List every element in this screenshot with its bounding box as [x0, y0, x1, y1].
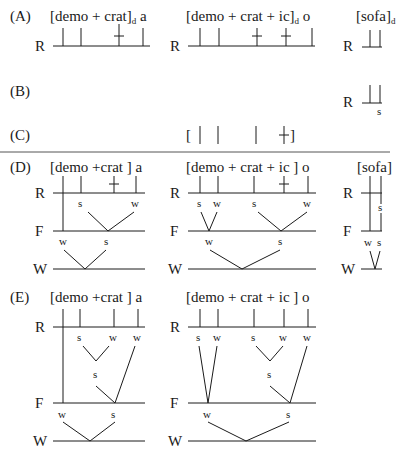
stress-mark: w [109, 332, 117, 343]
tier-label-root: R [35, 39, 45, 54]
tier-label-foot: F [343, 224, 351, 239]
panel-label-d: (D) [10, 160, 31, 175]
stress-mark: w [203, 409, 211, 420]
tier-label-foot: F [35, 396, 43, 411]
stress-mark: s [278, 236, 282, 247]
tier-label-root: R [170, 186, 180, 201]
stress-mark: s [251, 332, 255, 343]
form-text: [demo + crat] [50, 8, 132, 24]
tier-label-foot: F [35, 224, 43, 239]
panel-label-c: (C) [10, 128, 30, 143]
stress-mark: s [197, 198, 201, 209]
stress-mark: w [133, 332, 141, 343]
stress-mark: s [252, 198, 256, 209]
stress-mark: s [378, 202, 382, 213]
stress-mark: s [286, 409, 290, 420]
tier-label-root: R [343, 186, 353, 201]
stress-mark: s [377, 237, 381, 248]
tier-label-word: W [168, 434, 182, 449]
form-suffix: a [140, 8, 147, 24]
stress-mark: w [303, 198, 311, 209]
form-democratic-underlying: [demo + crat + ic]d o [186, 9, 310, 24]
stress-mark: w [303, 332, 311, 343]
tier-label-root: R [35, 320, 45, 335]
form-democrat: [demo +crat ] a [50, 290, 142, 305]
form-subscript: d [132, 16, 137, 26]
tier-label-root: R [343, 95, 353, 110]
tier-label-word: W [33, 434, 47, 449]
tier-label-foot: F [170, 396, 178, 411]
stress-mark: s [93, 369, 97, 380]
tier-label-root: R [170, 320, 180, 335]
form-subscript: d [391, 16, 396, 26]
tier-label-word: W [168, 262, 182, 277]
form-sofa-underlying: [sofa]d [356, 9, 395, 24]
metrical-tree-lines [0, 0, 397, 455]
form-democrat: [demo +crat ] a [50, 160, 142, 175]
panel-label-e: (E) [10, 290, 29, 305]
stress-mark: w [58, 409, 66, 420]
tier-label-root: R [343, 39, 353, 54]
stress-mark: w [213, 332, 221, 343]
form-democratic: [demo + crat + ic ] o [186, 290, 310, 305]
tier-label-word: W [33, 262, 47, 277]
form-text: [demo + crat + ic] [186, 8, 295, 24]
tier-label-foot: F [170, 224, 178, 239]
stress-mark: s [78, 198, 82, 209]
tier-label-word: W [341, 262, 355, 277]
grid-close-bracket: ] [290, 128, 295, 143]
tier-label-root: R [170, 39, 180, 54]
form-text: [sofa] [356, 8, 391, 24]
stress-mark: w [364, 237, 372, 248]
panel-label-b: (B) [10, 84, 30, 99]
stress-mark: w [59, 236, 67, 247]
stress-mark: s [77, 332, 81, 343]
stress-mark: w [205, 236, 213, 247]
form-suffix: o [303, 8, 311, 24]
stress-mark: s [104, 236, 108, 247]
stress-mark: s [267, 369, 271, 380]
stress-mark: s [196, 332, 200, 343]
stress-mark: w [279, 332, 287, 343]
grid-open-bracket: [ [186, 128, 191, 143]
stress-mark: w [131, 198, 139, 209]
stress-mark: s [377, 106, 381, 117]
form-democrat-underlying: [demo + crat]d a [50, 9, 147, 24]
form-democratic: [demo + crat + ic ] o [186, 160, 310, 175]
stress-mark: s [111, 409, 115, 420]
form-subscript: d [295, 16, 300, 26]
tier-label-root: R [35, 186, 45, 201]
form-sofa: [sofa] [357, 160, 392, 175]
stress-mark: w [213, 198, 221, 209]
panel-label-a: (A) [10, 9, 31, 24]
